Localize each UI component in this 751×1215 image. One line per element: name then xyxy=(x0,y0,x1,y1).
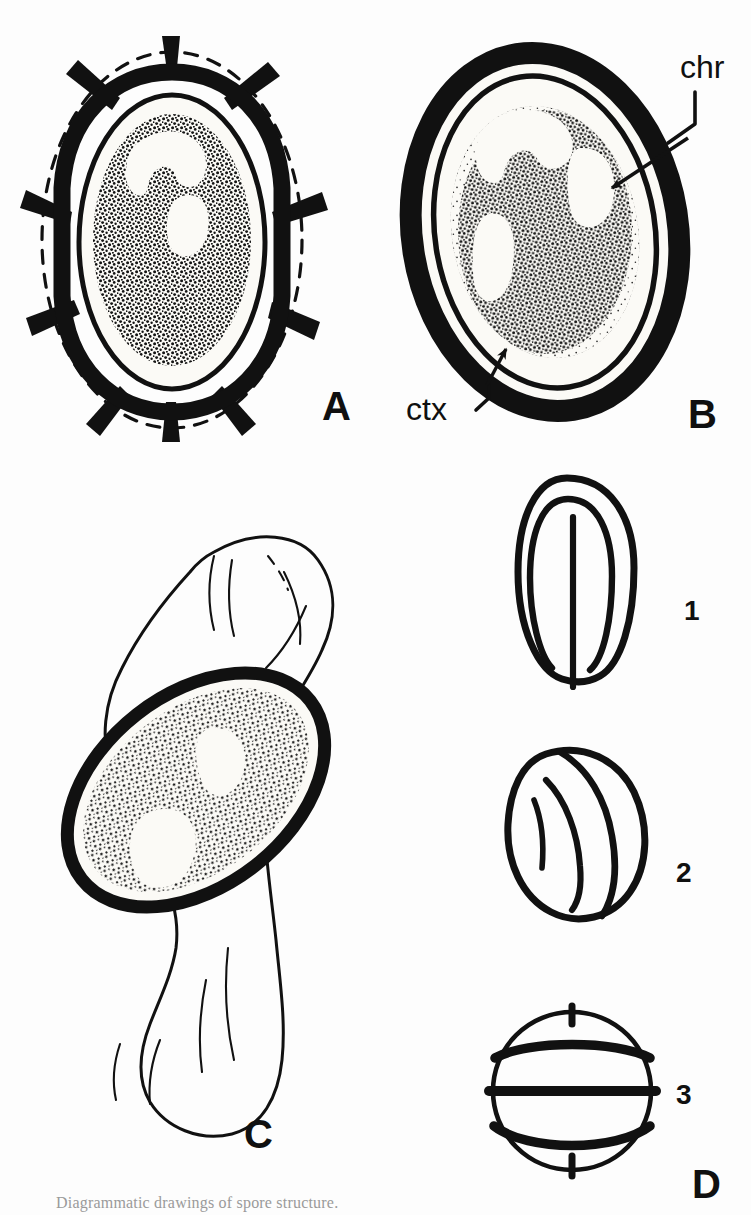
panel-d-view-1-label: 1 xyxy=(684,595,700,626)
panel-d-view-3-label: 3 xyxy=(676,1079,692,1110)
panel-c-label: C xyxy=(244,1112,273,1156)
panel-d-view-2-ridge-inner xyxy=(534,800,543,868)
panel-b-label: B xyxy=(688,392,717,436)
panel-d-view-2-ridge-mid xyxy=(546,780,581,910)
panel-d-view-2-label: 2 xyxy=(676,857,692,888)
chr-label: chr xyxy=(680,49,725,85)
panel-a-label: A xyxy=(322,384,351,428)
panel-d-view-3-arc-lower xyxy=(494,1126,650,1146)
panel-d-view-3-drawing: 3 xyxy=(489,1006,692,1176)
panel-c-drawing: C xyxy=(23,537,370,1156)
ctx-label: ctx xyxy=(406,391,447,427)
panel-a-drawing: A xyxy=(20,36,351,442)
panel-d-view-1-drawing: 1 xyxy=(518,478,700,687)
panel-d-view-2-ridge-outer xyxy=(560,752,615,916)
figure-plate: A xyxy=(0,0,751,1215)
figure-caption: Diagrammatic drawings of spore structure… xyxy=(56,1194,716,1212)
panel-d-view-2-drawing: 2 xyxy=(508,750,692,919)
panel-d-view-3-arc-upper xyxy=(495,1045,650,1059)
figure-caption-strip: Diagrammatic drawings of spore structure… xyxy=(0,1193,751,1215)
panel-b-drawing: chr ctx B xyxy=(385,33,724,436)
